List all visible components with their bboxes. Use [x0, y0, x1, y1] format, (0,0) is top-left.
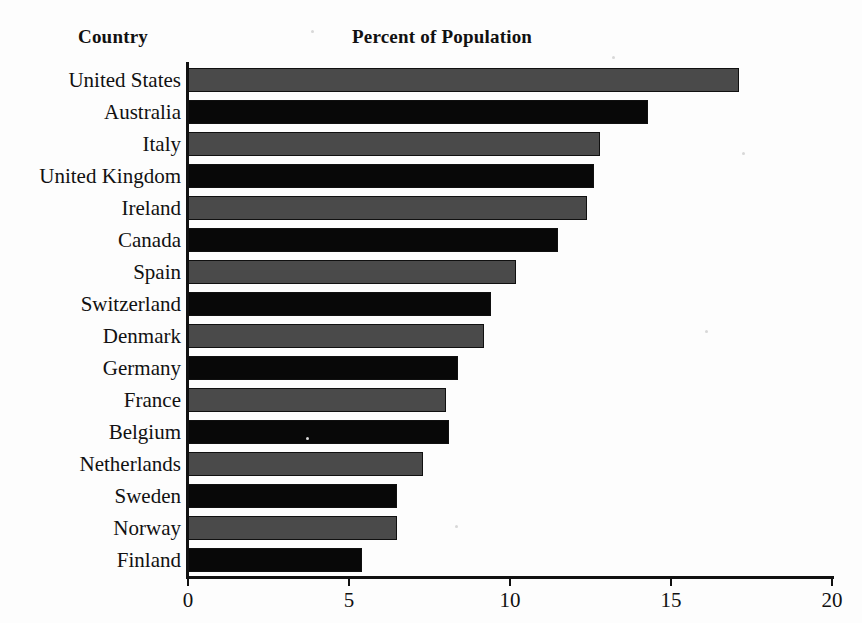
- plot-area: United StatesAustraliaItalyUnited Kingdo…: [188, 64, 832, 576]
- bar: [188, 100, 648, 124]
- bar-category-label: United States: [68, 64, 181, 96]
- page-speckle: [311, 30, 314, 33]
- bar-category-label: Ireland: [122, 192, 181, 224]
- bar-row: Sweden: [188, 480, 832, 512]
- x-axis-tick-label: 20: [822, 588, 843, 613]
- bar-row: Italy: [188, 128, 832, 160]
- bar-category-label: Germany: [103, 352, 181, 384]
- bar: [188, 324, 484, 348]
- bar: [188, 356, 458, 380]
- x-axis-tick-label: 15: [661, 588, 682, 613]
- bar: [188, 228, 558, 252]
- chart-title: Percent of Population: [352, 26, 532, 48]
- bar: [188, 548, 362, 572]
- x-axis-tick: [187, 576, 189, 586]
- bar-row: Norway: [188, 512, 832, 544]
- bar-row: Spain: [188, 256, 832, 288]
- bar-category-label: Belgium: [109, 416, 181, 448]
- bar-row: Germany: [188, 352, 832, 384]
- bar-row: United States: [188, 64, 832, 96]
- x-axis-tick-label: 5: [344, 588, 355, 613]
- page-speckle: [612, 56, 615, 59]
- bar-category-label: France: [124, 384, 181, 416]
- bar-category-label: Norway: [113, 512, 181, 544]
- bar-chart: Country Percent of Population 05101520 U…: [0, 0, 862, 623]
- bar-category-label: Spain: [133, 256, 181, 288]
- bar-category-label: Switzerland: [81, 288, 181, 320]
- x-axis-tick: [670, 576, 672, 586]
- bar: [188, 164, 594, 188]
- bar: [188, 420, 449, 444]
- bar-category-label: Italy: [143, 128, 181, 160]
- bar-row: Denmark: [188, 320, 832, 352]
- category-axis-header: Country: [78, 26, 148, 48]
- x-axis-tick: [831, 576, 833, 586]
- bar-row: France: [188, 384, 832, 416]
- x-axis-tick-label: 0: [183, 588, 194, 613]
- x-axis-tick: [348, 576, 350, 586]
- bar-category-label: Netherlands: [80, 448, 181, 480]
- x-axis-tick-label: 10: [500, 588, 521, 613]
- bar-row: Switzerland: [188, 288, 832, 320]
- bar: [188, 132, 600, 156]
- bar: [188, 260, 516, 284]
- bar: [188, 452, 423, 476]
- bar: [188, 516, 397, 540]
- bar: [188, 484, 397, 508]
- bar-category-label: Finland: [117, 544, 181, 576]
- bar-row: Finland: [188, 544, 832, 576]
- bar-category-label: Australia: [104, 96, 181, 128]
- bar-row: Canada: [188, 224, 832, 256]
- bar: [188, 68, 739, 92]
- bar-category-label: Sweden: [115, 480, 182, 512]
- bar-row: Ireland: [188, 192, 832, 224]
- bar-category-label: Canada: [118, 224, 181, 256]
- bar-row: Australia: [188, 96, 832, 128]
- x-axis-tick: [509, 576, 511, 586]
- bar: [188, 292, 491, 316]
- bar-category-label: United Kingdom: [39, 160, 181, 192]
- bar-row: Belgium: [188, 416, 832, 448]
- bar-category-label: Denmark: [103, 320, 181, 352]
- bar-row: Netherlands: [188, 448, 832, 480]
- bar: [188, 196, 587, 220]
- bar: [188, 388, 446, 412]
- bar-row: United Kingdom: [188, 160, 832, 192]
